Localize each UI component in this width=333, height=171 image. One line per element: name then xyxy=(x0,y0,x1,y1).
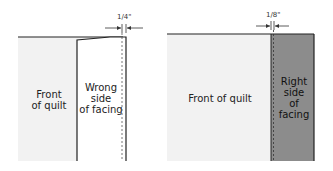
left-dimension-label: 1/4" xyxy=(117,13,132,21)
right-facing-label-line3: of xyxy=(274,98,314,109)
left-facing-label-line2: side xyxy=(78,93,124,104)
left-quilt-label: Front of quilt xyxy=(24,89,74,111)
left-quilt-label-line1: Front xyxy=(24,89,74,100)
right-facing-label: Right side of facing xyxy=(274,76,314,120)
right-quilt-label: Front of quilt xyxy=(180,93,260,104)
right-dimension-label: 1/8" xyxy=(266,11,281,19)
left-facing-label-line1: Wrong xyxy=(78,82,124,93)
right-facing-label-line2: side xyxy=(274,87,314,98)
left-facing-label-line3: of facing xyxy=(78,104,124,115)
right-facing-label-line1: Right xyxy=(274,76,314,87)
left-facing-label: Wrong side of facing xyxy=(78,82,124,115)
left-quilt-label-line2: of quilt xyxy=(24,100,74,111)
right-facing-label-line4: facing xyxy=(274,109,314,120)
